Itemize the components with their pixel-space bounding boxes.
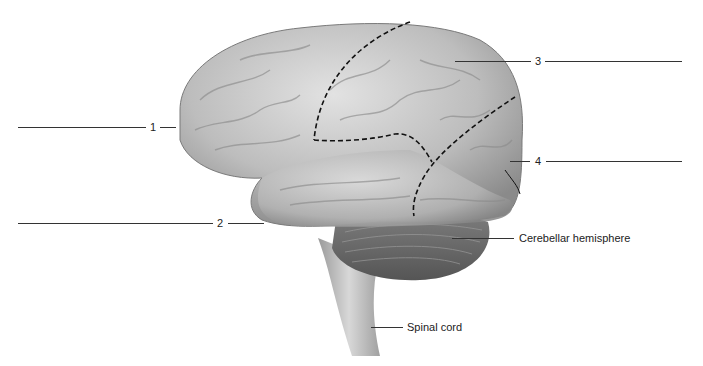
leader-line-3 [545,61,682,62]
brain-diagram: 1 2 3 4 Cerebellar hemisphere Spinal cor… [0,0,703,366]
label-4: 4 [535,155,541,167]
leader-line-1 [18,127,146,128]
leader-line-2 [18,223,213,224]
leader-line-cerebellar [452,238,514,239]
label-2: 2 [217,217,223,229]
leader-line-4-pointer [510,161,530,162]
leader-line-3-pointer [455,61,531,62]
leader-line-2-pointer [228,223,264,224]
leader-line-spinal-cord [371,327,403,328]
label-3: 3 [535,55,541,67]
leader-line-1-pointer [160,127,176,128]
label-1: 1 [150,121,156,133]
label-cerebellar-hemisphere: Cerebellar hemisphere [519,232,630,244]
leader-line-4 [546,161,682,162]
label-spinal-cord: Spinal cord [407,321,462,333]
brain-illustration [0,0,703,366]
